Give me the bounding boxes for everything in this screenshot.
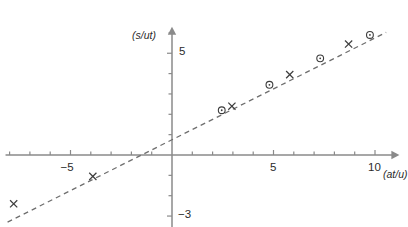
y-tick-label-5: 5 xyxy=(179,45,185,57)
trendline xyxy=(8,32,387,222)
data-point-circle-center xyxy=(369,34,371,36)
x-axis-label: (at/u) xyxy=(383,168,408,180)
axes-group xyxy=(6,27,400,227)
y-axis-arrow xyxy=(168,27,176,35)
figure-container: −5 5 10 5 −3 (s/ut) (at/u) xyxy=(0,0,408,227)
x-tick-label-5: 5 xyxy=(270,161,276,173)
data-point-circle-center xyxy=(319,57,321,59)
y-axis-label: (s/ut) xyxy=(132,29,156,41)
data-markers xyxy=(10,32,373,208)
y-tick-label-neg3: −3 xyxy=(178,208,191,220)
x-axis-arrow xyxy=(391,151,399,159)
data-point-circle-center xyxy=(269,84,271,86)
trendline-path xyxy=(8,32,387,222)
scatter-plot xyxy=(0,0,408,227)
x-tick-label-10: 10 xyxy=(368,161,381,173)
x-tick-label-neg5: −5 xyxy=(61,161,74,173)
data-point-circle-center xyxy=(221,109,223,111)
